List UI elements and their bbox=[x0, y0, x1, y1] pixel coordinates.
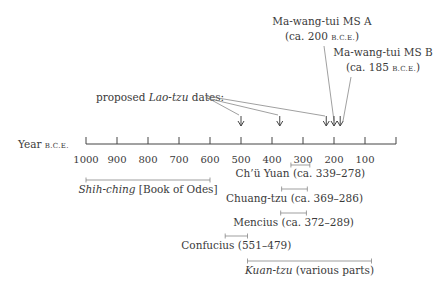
ms-a-title: Ma-wang-tui MS A bbox=[272, 15, 372, 27]
proposed-date-arrows bbox=[238, 116, 343, 126]
span-shih-ching: Shih-ching [Book of Odes] bbox=[78, 178, 217, 196]
axis-ticks bbox=[86, 137, 396, 144]
period-spans: Ch’ü Yuan (ca. 339–278)Shih-ching [Book … bbox=[78, 163, 374, 277]
ms-b-pointer-line bbox=[343, 77, 351, 121]
span-chuang-tzu: Chuang-tzu (ca. 369–286) bbox=[226, 187, 363, 205]
span-label: Shih-ching [Book of Odes] bbox=[78, 183, 217, 195]
span-label: Mencius (ca. 372–289) bbox=[233, 216, 354, 228]
span-confucius: Confucius (551–479) bbox=[181, 234, 291, 252]
span-label: Confucius (551–479) bbox=[181, 239, 291, 251]
axis-tick-label: 1000 bbox=[73, 154, 98, 165]
axis-tick-label: 600 bbox=[200, 154, 219, 165]
axis-tick-label: 200 bbox=[324, 154, 343, 165]
axis-tick-label: 500 bbox=[231, 154, 250, 165]
ms-b-date: (ca. 185 B.C.E.) bbox=[346, 61, 420, 73]
ms-a-date: (ca. 200 B.C.E.) bbox=[285, 30, 359, 42]
span-label: Ch’ü Yuan (ca. 339–278) bbox=[236, 167, 366, 179]
span-mencius: Mencius (ca. 372–289) bbox=[233, 211, 354, 229]
span-kuan-tzu: Kuan-tzu (various parts) bbox=[244, 259, 374, 277]
axis-tick-label: 800 bbox=[138, 154, 157, 165]
span-chu-yuan: Ch’ü Yuan (ca. 339–278) bbox=[236, 163, 366, 180]
proposed-laotzu-label: proposed Lao-tzu dates: bbox=[96, 91, 224, 103]
span-label: Chuang-tzu (ca. 369–286) bbox=[226, 192, 363, 204]
axis-tick-label: 700 bbox=[169, 154, 188, 165]
axis-tick-label: 400 bbox=[262, 154, 281, 165]
axis-tick-labels: 1000900800700600500400300200100 bbox=[73, 154, 374, 165]
axis-tick-label: 100 bbox=[355, 154, 374, 165]
axis-label: Year B.C.E. bbox=[17, 138, 69, 150]
span-label: Kuan-tzu (various parts) bbox=[244, 264, 374, 276]
axis-tick-label: 900 bbox=[107, 154, 126, 165]
timeline-diagram: Ma-wang-tui MS A (ca. 200 B.C.E.) Ma-wan… bbox=[0, 0, 437, 289]
proposed-pointer-lines bbox=[206, 96, 325, 116]
ms-b-title: Ma-wang-tui MS B bbox=[333, 46, 433, 58]
